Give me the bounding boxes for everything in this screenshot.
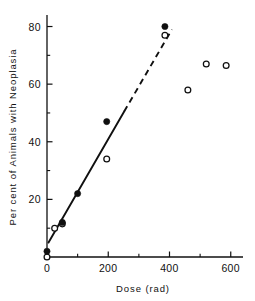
x-tick-label: 600 — [221, 262, 240, 274]
y-tick-label: 80 — [29, 21, 41, 33]
data-point-open — [162, 32, 168, 38]
y-tick-label: 20 — [29, 193, 41, 205]
data-point-open — [104, 156, 110, 162]
y-axis-ticks — [47, 27, 53, 229]
data-point-filled — [104, 118, 110, 124]
y-axis-title: Per cent of Animals with Neoplasia — [7, 49, 18, 226]
data-point-filled — [44, 248, 50, 254]
y-axis-tick-labels: 20406080 — [29, 21, 41, 206]
x-axis-tick-labels: 0200400600 — [44, 262, 240, 274]
data-point-open — [203, 61, 209, 67]
data-point-open — [44, 254, 50, 260]
linear-fit-line — [49, 29, 172, 242]
y-tick-label: 60 — [29, 78, 41, 90]
figure-container: 0200400600 20406080 Dose (rad) Per cent … — [0, 0, 255, 301]
x-tick-label: 0 — [44, 262, 50, 274]
y-tick-label: 40 — [29, 136, 41, 148]
data-point-open — [185, 87, 191, 93]
x-axis-title: Dose (rad) — [116, 283, 170, 294]
axis-lines — [47, 15, 243, 257]
filled-circle-data-points — [44, 23, 168, 254]
data-point-filled — [59, 219, 65, 225]
scatter-plot: 0200400600 20406080 Dose (rad) Per cent … — [0, 0, 255, 301]
x-axis-ticks — [47, 252, 231, 258]
data-point-open — [223, 63, 229, 69]
x-tick-label: 400 — [160, 262, 179, 274]
data-point-open — [52, 225, 58, 231]
open-circle-data-points — [44, 32, 229, 260]
fit-line-dashed — [124, 29, 172, 111]
x-tick-label: 200 — [99, 262, 118, 274]
data-point-filled — [162, 23, 168, 29]
data-point-filled — [75, 191, 81, 197]
